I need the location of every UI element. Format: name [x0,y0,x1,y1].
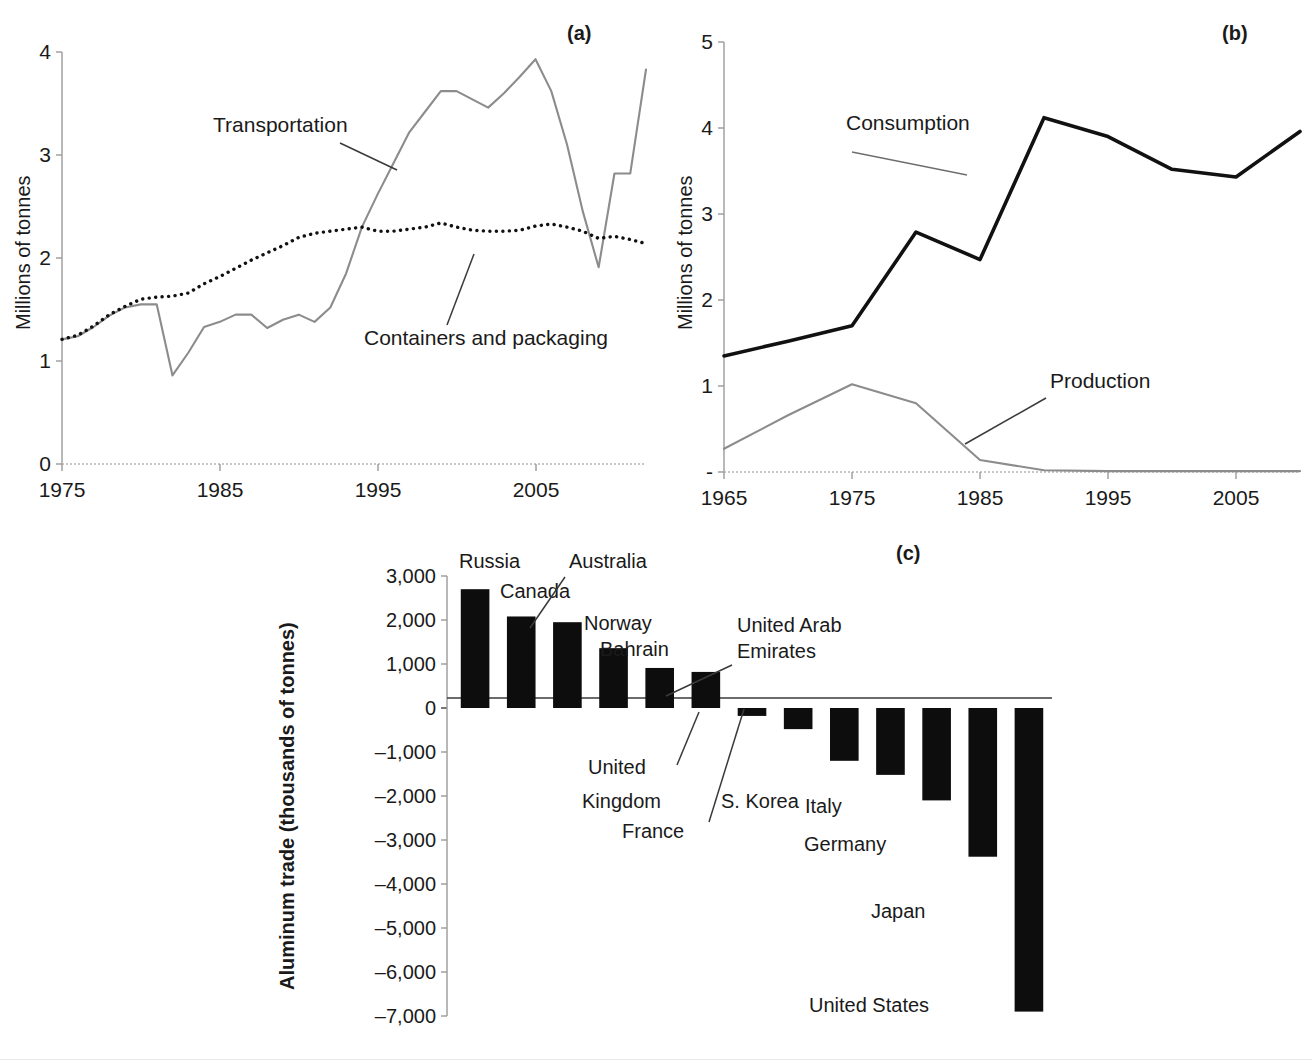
leader-containers [447,254,474,325]
bar-france [784,708,813,729]
bar-label-norway: Norway [584,612,652,634]
panel-b-ytick-5: 5 [701,30,713,53]
bar-germany [922,708,951,800]
panel-c-y-axis-title: Aluminum trade (thousands of tonnes) [276,622,298,990]
bar-label-uk-line2: Kingdom [582,790,661,812]
bar-label-japan: Japan [871,900,926,922]
panel-c-ytick-group: 3,0002,0001,0000–1,000–2,000–3,000–4,000… [375,565,447,1027]
panel-a-y-axis-title: Millions of tonnes [12,175,34,330]
panel-a-ytick-0: 0 [39,452,51,475]
panel-b-ytick-3: 3 [701,202,713,225]
bar-label-germany: Germany [804,833,886,855]
panel-a-svg: (a) Millions of tonnes 4 3 2 1 0 1975 19… [0,0,660,510]
caption-rule [0,1059,1312,1060]
panel-b-tag: (b) [1222,22,1248,44]
bar-label-france: France [622,820,684,842]
bar-united-states [1015,708,1044,1012]
panel-a-xtick-1975: 1975 [39,478,86,501]
panel-b-y-axis-title: Millions of tonnes [674,175,696,330]
bar-label-uk-line1: United [588,756,646,778]
panel-c-ytick-7: –4,000 [375,873,436,895]
panel-a: (a) Millions of tonnes 4 3 2 1 0 1975 19… [0,0,660,510]
series-label-transportation: Transportation [213,113,348,136]
bar-label-italy: Italy [805,795,842,817]
series-containers-line [62,223,646,339]
bar-italy [876,708,905,775]
panel-c-ytick-8: –5,000 [375,917,436,939]
bar-japan [968,708,997,857]
bar-s-korea [830,708,859,761]
bar-label-uae-line1: United Arab [737,614,842,636]
series-label-production: Production [1050,369,1150,392]
series-label-containers: Containers and packaging [364,326,608,349]
bar-label-australia: Australia [569,550,648,572]
leader-uk [677,712,699,765]
panel-c-svg: (c) Aluminum trade (thousands of tonnes)… [262,520,1062,1064]
panel-a-ytick-3: 3 [39,143,51,166]
panel-b-xtick-1975: 1975 [829,486,876,509]
panel-b-ytick-1: 1 [701,374,713,397]
leader-transportation [340,143,397,170]
panel-c-ytick-4: –1,000 [375,741,436,763]
panel-b: (b) Millions of tonnes 5 4 3 2 1 - 1965 … [660,0,1312,510]
panel-a-xtick-1985: 1985 [197,478,244,501]
panel-b-svg: (b) Millions of tonnes 5 4 3 2 1 - 1965 … [660,0,1312,510]
panel-b-ytick-0: - [706,460,713,483]
bar-label-united-states: United States [809,994,929,1016]
panel-b-xtick-1995: 1995 [1085,486,1132,509]
panel-a-ytick-2: 2 [39,246,51,269]
bar-label-russia: Russia [459,550,521,572]
panel-a-xtick-1995: 1995 [355,478,402,501]
leader-production [965,398,1046,444]
bar-canada [507,616,536,708]
series-label-consumption: Consumption [846,111,970,134]
panel-a-tag: (a) [567,22,591,44]
panel-c-ytick-3: 0 [425,697,436,719]
panel-c-ytick-6: –3,000 [375,829,436,851]
panel-a-ytick-4: 4 [39,40,51,63]
panel-c-ytick-0: 3,000 [386,565,436,587]
bar-label-bahrain: Bahrain [600,638,669,660]
leader-consumption [852,152,967,175]
panel-c-tag: (c) [896,542,920,564]
series-production-line [724,384,1300,471]
panel-a-ytick-1: 1 [39,349,51,372]
panel-c: (c) Aluminum trade (thousands of tonnes)… [262,520,1062,1064]
panel-b-xtick-2005: 2005 [1213,486,1260,509]
panel-b-ytick-2: 2 [701,288,713,311]
bar-label-skorea: S. Korea [721,790,800,812]
panel-c-ytick-9: –6,000 [375,961,436,983]
bar-australia [553,622,582,708]
panel-c-ytick-2: 1,000 [386,653,436,675]
bar-russia [461,589,490,708]
bar-label-uae-line2: Emirates [737,640,816,662]
panel-a-xtick-2005: 2005 [513,478,560,501]
panel-c-ytick-10: –7,000 [375,1005,436,1027]
panel-b-xtick-1965: 1965 [701,486,748,509]
series-consumption-line [724,118,1300,356]
panel-b-xtick-1985: 1985 [957,486,1004,509]
bar-bahrain [645,668,674,708]
panel-c-ytick-5: –2,000 [375,785,436,807]
panel-b-ytick-4: 4 [701,116,713,139]
panel-c-ytick-1: 2,000 [386,609,436,631]
